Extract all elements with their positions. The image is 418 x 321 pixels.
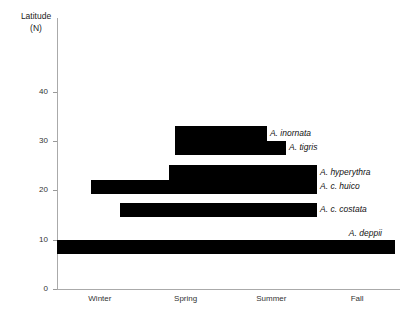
bar-a-deppii [57,240,395,254]
bar-label-a-c-costata: A. c. costata [320,204,367,214]
latitude-season-chart: Latitude (N) 010203040 WinterSpringSumme… [0,0,418,321]
y-tick-label-20: 20 [22,185,48,194]
bar-a-hyperythra [169,165,317,180]
bar-a-tigris [175,141,286,155]
bar-label-a-hyperythra: A. hyperythra [320,167,371,177]
bar-label-a-tigris: A. tigris [289,142,317,152]
y-tick-label-10: 10 [22,235,48,244]
bar-a-c-costata [120,203,317,217]
x-category-fall: Fall [317,294,397,303]
x-category-summer: Summer [231,294,311,303]
x-category-spring: Spring [146,294,226,303]
x-axis-line [57,289,400,290]
bar-label-a-c-huico: A. c. huico [320,181,360,191]
y-tick-label-0: 0 [22,284,48,293]
y-tick-mark-40 [53,92,57,93]
y-tick-label-30: 30 [22,136,48,145]
bar-label-a-inornata: A. inornata [270,128,311,138]
y-tick-label-40: 40 [22,87,48,96]
bar-label-a-deppii: A. deppii [349,228,382,238]
x-category-winter: Winter [60,294,140,303]
bar-a-inornata [175,126,267,141]
y-tick-mark-20 [53,190,57,191]
y-tick-mark-30 [53,141,57,142]
y-tick-mark-0 [53,289,57,290]
bar-a-c-huico [91,180,317,194]
